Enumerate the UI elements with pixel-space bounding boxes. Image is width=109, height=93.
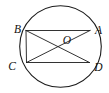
circle-outline	[20, 6, 102, 88]
geometry-diagram: BACDO	[0, 0, 109, 93]
segment-BC	[26, 31, 27, 63]
point-label-D: D	[93, 61, 103, 73]
point-label-C: C	[8, 60, 16, 72]
point-label-B: B	[14, 23, 21, 35]
circle-quadrilateral-figure: BACDO	[0, 0, 109, 93]
point-label-O: O	[63, 34, 72, 46]
point-label-A: A	[94, 24, 103, 36]
